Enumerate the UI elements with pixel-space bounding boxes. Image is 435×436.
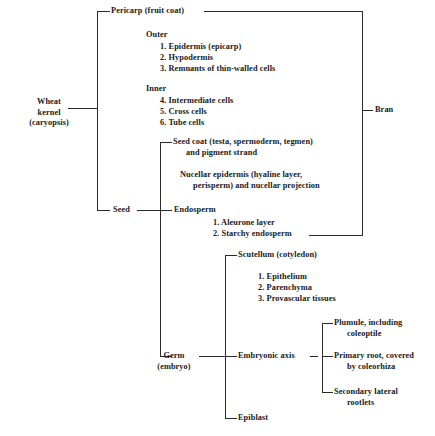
embryonic-axis-tick-primary-root (322, 356, 333, 357)
scutellum-item-2: 2. Parenchyma (258, 283, 312, 294)
seed-coat-line-2: and pigment strand (186, 148, 257, 159)
germ-connector-rule (199, 356, 225, 357)
seed-bracket-vertical (160, 142, 161, 356)
bran-bracket-tick (362, 110, 373, 111)
germ-label: Germ (embryo) (148, 351, 200, 372)
germ-bracket-tick-epiblast (225, 418, 237, 419)
root-label-line-3: (caryopsis) (8, 118, 90, 129)
bran-bracket-vertical (362, 11, 363, 236)
pericarp-outer-item-1: 1. Epidermis (epicarp) (160, 42, 241, 53)
seed-bracket-tick-endosperm (160, 210, 172, 211)
seed-coat-line-1: Seed coat (testa, spermoderm, tegmen) (173, 137, 313, 148)
starchy-endosperm-to-bran-rule (309, 235, 363, 236)
secondary-lateral-rootlets-line-2: rootlets (347, 398, 374, 409)
scutellum-item-1: 1. Epithelium (258, 272, 307, 283)
pericarp-inner-item-5: 5. Cross cells (160, 107, 207, 118)
pericarp-inner-item-6: 6. Tube cells (160, 118, 204, 129)
bran-label: Bran (375, 105, 393, 116)
secondary-lateral-rootlets-line-1: Secondary lateral (334, 387, 398, 398)
nucellar-epidermis-line-1: Nucellar epidermis (hyaline layer, (180, 170, 302, 181)
pericarp-outer-item-2: 2. Hypodermis (160, 53, 213, 64)
pericarp-label: Pericarp (fruit coat) (111, 6, 184, 17)
seed-connector-rule (137, 210, 160, 211)
wheat-kernel-structure-diagram: Wheat kernel (caryopsis) Pericarp (fruit… (0, 0, 435, 436)
seed-bracket-tick-seed-coat (160, 142, 172, 143)
pericarp-inner-heading: Inner (146, 84, 166, 95)
germ-label-line-2: (embryo) (148, 362, 200, 373)
level1-bracket-tick-pericarp (97, 11, 110, 12)
germ-bracket-tick-embryonic-axis (225, 356, 237, 357)
primary-root-line-1: Primary root, covered (334, 351, 414, 362)
embryonic-axis-bracket-vertical (322, 323, 323, 392)
germ-label-line-1: Germ (148, 351, 200, 362)
nucellar-epidermis-line-2: perisperm) and nucellar projection (193, 181, 320, 192)
plumule-line-1: Plumule, including (334, 318, 402, 329)
endosperm-label: Endosperm (174, 205, 216, 216)
scutellum-label: Scutellum (cotyledon) (238, 250, 317, 261)
embryonic-axis-tick-plumule (322, 323, 333, 324)
root-label-line-2: kernel (8, 108, 90, 119)
germ-bracket-vertical (225, 255, 226, 418)
scutellum-item-3: 3. Provascular tissues (258, 294, 336, 305)
embryonic-axis-connector-rule (310, 356, 318, 357)
endosperm-item-2: 2. Starchy endosperm (213, 229, 292, 240)
germ-bracket-tick-scutellum (225, 255, 237, 256)
epiblast-label: Epiblast (238, 413, 268, 424)
root-label-line-1: Wheat (8, 97, 90, 108)
level1-bracket-vertical (97, 11, 98, 211)
level1-bracket-tick-seed (97, 210, 110, 211)
root-label-wheat-kernel: Wheat kernel (caryopsis) (8, 97, 90, 129)
endosperm-item-1: 1. Aleurone layer (213, 218, 275, 229)
embryonic-axis-tick-secondary-rootlets (322, 392, 333, 393)
plumule-line-2: coleoptile (347, 329, 381, 340)
pericarp-outer-item-3: 3. Remnants of thin-walled cells (160, 64, 275, 75)
root-connector-rule (68, 108, 98, 109)
pericarp-to-bran-rule (204, 11, 363, 12)
pericarp-outer-heading: Outer (146, 30, 168, 41)
pericarp-inner-item-4: 4. Intermediate cells (160, 96, 233, 107)
primary-root-line-2: by coleorhiza (347, 362, 395, 373)
embryonic-axis-label: Embryonic axis (238, 351, 295, 362)
seed-label: Seed (113, 205, 130, 216)
